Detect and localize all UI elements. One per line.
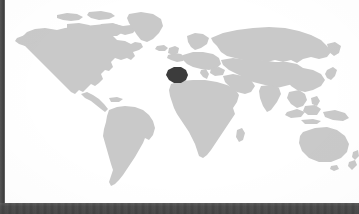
left-edge-bar [0,0,5,214]
landmass-arctic-islands-2 [87,11,115,20]
landmass-europe-central [183,52,221,70]
landmass-scandinavia [187,33,209,50]
landmass-japan [325,67,337,80]
landmass-southeast-asia [287,90,307,108]
landmass-indonesia-borneo [303,105,321,115]
landmass-iceland [155,45,168,51]
landmass-new-guinea [323,110,349,121]
landmass-indonesia-java [301,119,321,124]
landmass-china-east [287,68,325,92]
landmass-greenland [127,12,163,42]
landmass-philippines [311,96,320,106]
map-canvas[interactable] [5,0,359,203]
landmass-balkans [210,67,225,76]
landmass-india [259,85,281,112]
highlighted-country-spain[interactable] [166,67,188,83]
bottom-edge-bar [0,203,359,214]
landmass-italy [200,69,209,79]
landmass-africa [169,80,239,158]
landmass-indonesia-sumatra [285,109,305,118]
landmass-central-america [81,92,108,112]
landmass-new-zealand [352,150,359,160]
landmass-new-zealand-south [348,160,357,170]
world-map-widget [0,0,359,214]
landmass-south-america [103,106,155,186]
landmass-australia [299,127,349,162]
landmass-north-america [21,24,143,94]
landmass-caribbean [109,97,123,102]
landmass-arctic-islands-3 [67,23,93,30]
landmass-arctic-islands [57,13,83,21]
landmass-asia-russia [211,27,331,63]
landmass-tasmania [330,165,339,171]
world-map-svg [5,0,359,203]
landmass-europe-west [167,53,185,62]
landmass-madagascar [236,128,245,142]
